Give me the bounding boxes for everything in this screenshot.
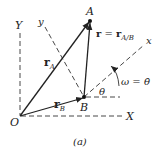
origin-label: O (10, 116, 19, 129)
rA-label: rA (44, 56, 55, 71)
angular-velocity-label: ω = θ̇ (121, 76, 150, 87)
fixed-x-label: X (125, 110, 135, 123)
omega-arc-arrow (111, 66, 119, 86)
relative-motion-diagram: Y X O y x A B rA rB r = rA/B θ ω = θ̇ (a… (0, 0, 159, 148)
rotating-y-label: y (37, 16, 44, 27)
point-B (82, 95, 86, 99)
vector-rAB (84, 23, 90, 97)
rB-label: rB (54, 98, 65, 113)
point-A (88, 19, 92, 23)
theta-label: θ (99, 86, 105, 97)
rotating-x-axis (84, 45, 144, 97)
point-B-label: B (79, 101, 88, 114)
rotating-x-label: x (146, 35, 152, 46)
point-A-label: A (85, 5, 94, 18)
fixed-y-label: Y (15, 19, 24, 32)
vector-rB (20, 98, 83, 116)
relative-vector-label: r = rA/B (96, 28, 134, 42)
figure-caption: (a) (73, 136, 87, 147)
